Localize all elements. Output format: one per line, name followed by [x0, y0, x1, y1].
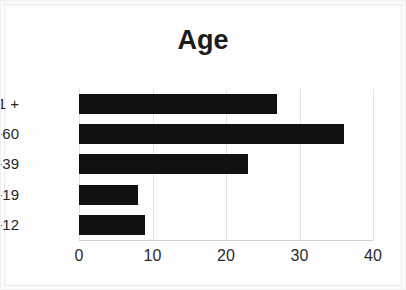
x-axis-tick-label: 20: [196, 247, 256, 265]
y-axis-tick-label: 0-12: [0, 210, 19, 240]
y-axis-tick-label: 13-19: [0, 180, 19, 210]
bar-61: [79, 94, 277, 114]
x-axis-tick-label: 40: [343, 247, 403, 265]
plot-area: [79, 89, 373, 240]
x-axis-tick-label: 10: [123, 247, 183, 265]
bar-row: [79, 89, 373, 119]
bar-20to39: [79, 154, 248, 174]
x-axis-tick-label: 0: [49, 247, 109, 265]
bar-13to19: [79, 185, 138, 205]
gridline-x-40: [373, 89, 374, 240]
bar-row: [79, 180, 373, 210]
chart-title: Age: [1, 27, 405, 54]
bar-0to12: [79, 215, 145, 235]
x-axis-line: [79, 240, 373, 241]
bar-chart-figure: Age 61 +40-6020-3913-190-12 010203040: [0, 0, 406, 290]
bar-row: [79, 119, 373, 149]
bar-40to60: [79, 124, 344, 144]
y-axis-tick-label: 20-39: [0, 149, 19, 179]
y-axis-tick-label: 40-60: [0, 119, 19, 149]
y-axis-tick-label: 61 +: [0, 89, 19, 119]
x-axis-tick-label: 30: [270, 247, 330, 265]
bar-row: [79, 149, 373, 179]
bar-row: [79, 210, 373, 240]
